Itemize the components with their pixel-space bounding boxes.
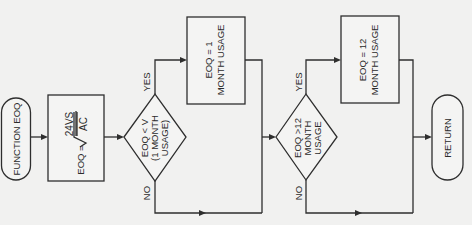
decision1-line3: USAGE) — [159, 120, 170, 156]
connector-decision2-no — [306, 180, 413, 216]
decision1-yes-label: YES — [141, 72, 152, 91]
formula-denominator: AC — [78, 117, 89, 131]
decision2-line3: USAGE — [312, 121, 323, 154]
end-label: RETURN — [442, 118, 453, 158]
decision2-no-label: NO — [293, 186, 304, 200]
connector-process1-to-junction — [245, 60, 262, 213]
start-label: FUNCTION EOQ — [11, 103, 22, 176]
formula-box: EOQ = 24VS AC — [48, 95, 104, 181]
connector-decision1-yes — [155, 57, 187, 94]
connector-process2-to-junction — [399, 60, 413, 213]
connector-decision2-yes — [306, 57, 341, 94]
start-terminal: FUNCTION EOQ — [2, 98, 31, 180]
connector-start-to-formula — [31, 134, 49, 140]
process1-line1: EOQ = 1 — [203, 41, 214, 78]
decision2-yes-label: YES — [293, 72, 304, 91]
process1-line2: MONTH USAGE — [215, 25, 226, 96]
end-terminal: RETURN — [432, 95, 463, 180]
decision1-no-label: NO — [141, 186, 152, 200]
formula-lhs: EOQ = — [75, 145, 86, 175]
connector-decision1-no — [155, 181, 262, 216]
process2-line2: MONTH USAGE — [369, 25, 380, 96]
formula-numerator: 24VS — [64, 111, 75, 136]
flowchart-canvas: FUNCTION EOQ EOQ = 24VS AC EOQ < V (1 MO… — [0, 0, 472, 225]
connector-junction-to-return — [413, 134, 432, 140]
process-box-2: EOQ = 12 MONTH USAGE — [341, 16, 399, 103]
connector-junction-to-decision2 — [262, 134, 276, 140]
connector-formula-to-decision1 — [104, 134, 124, 140]
process2-line1: EOQ = 12 — [357, 39, 368, 82]
process-box-1: EOQ = 1 MONTH USAGE — [187, 17, 245, 104]
